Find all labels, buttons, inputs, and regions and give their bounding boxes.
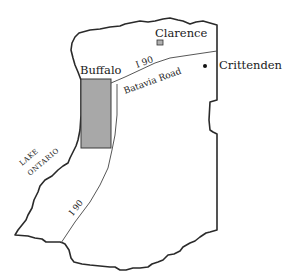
- i90-south-label: I 90: [67, 198, 85, 217]
- batavia-road-label: Batavia Road: [122, 66, 182, 96]
- clarence-marker: [157, 40, 163, 45]
- crittenden-marker: [203, 64, 207, 68]
- buffalo-area: [81, 79, 111, 148]
- crittenden-label: Crittenden: [219, 58, 283, 72]
- clarence-label: Clarence: [155, 26, 207, 40]
- county-map: Clarence Buffalo Crittenden I 90 Batavia…: [0, 0, 293, 279]
- buffalo-label: Buffalo: [80, 63, 122, 77]
